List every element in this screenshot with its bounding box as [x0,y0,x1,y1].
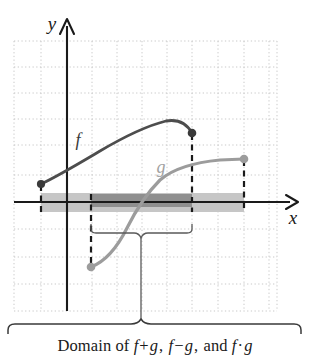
caption-brace [8,319,301,334]
caption-lead: Domain of [57,336,129,355]
y-axis-label: y [46,13,57,34]
g-right-endpoint-dot [240,155,249,164]
curve-f-label: f [75,130,83,150]
caption-f3: f [232,336,237,355]
caption-comma-2: , [193,336,199,355]
curve-g-label: g [157,157,166,177]
function-domain-diagram: y x f g [0,0,310,364]
caption-and: and [204,336,228,355]
caption-dot: · [237,336,245,355]
caption-g2: g [185,336,193,355]
f-left-endpoint-dot [37,180,45,188]
x-axis-label: x [288,207,298,228]
grid [14,41,277,311]
g-left-endpoint-dot [87,263,96,272]
f-right-endpoint-dot [188,129,197,138]
domain-caption: Domain of f+g, f−g, and f·g [0,336,310,356]
caption-g3: g [244,336,252,355]
caption-plus: + [138,336,149,355]
caption-g1: g [150,336,158,355]
caption-comma-1: , [158,336,164,355]
caption-minus: − [173,336,184,355]
